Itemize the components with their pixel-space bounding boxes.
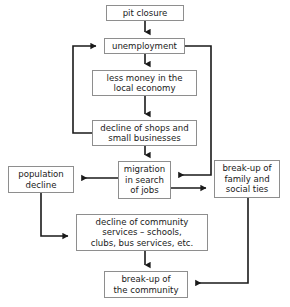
node-break-up-of-family-and-social-ties[interactable]: break-up of family and social ties xyxy=(214,160,280,198)
edge-unemployment-to-migration-feedback xyxy=(179,46,211,175)
node-break-up-of-the-community[interactable]: break-up of the community xyxy=(104,271,188,298)
node-less-money-in-local-economy[interactable]: less money in the local economy xyxy=(92,70,197,96)
node-population-decline[interactable]: population decline xyxy=(8,166,74,193)
node-migration-in-search-of-jobs[interactable]: migration in search of jobs xyxy=(118,161,171,199)
edge-population-decline-to-community-services xyxy=(41,193,68,236)
flowchart-diagram: pit closure unemployment less money in t… xyxy=(0,0,290,307)
node-decline-of-community-services[interactable]: decline of community services – schools,… xyxy=(76,214,208,251)
node-decline-of-shops-and-small-businesses[interactable]: decline of shops and small businesses xyxy=(92,120,197,146)
node-unemployment[interactable]: unemployment xyxy=(104,38,185,54)
node-pit-closure[interactable]: pit closure xyxy=(106,5,184,21)
